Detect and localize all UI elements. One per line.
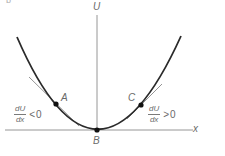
greater-than-sign: > [163, 109, 169, 120]
derivative-fraction: dU dx [148, 105, 160, 124]
zero-value: 0 [170, 109, 176, 120]
figure-corner-label: b [6, 0, 11, 5]
point-a-marker [53, 101, 58, 106]
point-c-marker [138, 102, 143, 107]
fraction-denominator: dx [16, 115, 24, 124]
zero-value: 0 [36, 109, 42, 120]
x-axis-label: x [193, 124, 198, 134]
fraction-numerator: dU [14, 105, 26, 115]
potential-energy-diagram: b U x A B C dU dx < 0 dU dx > 0 [0, 0, 225, 156]
point-c-label: C [128, 93, 135, 103]
diagram-canvas [0, 0, 225, 156]
point-b-label: B [93, 136, 100, 146]
point-b-marker [94, 127, 99, 132]
less-than-sign: < [29, 109, 35, 120]
slope-negative-annotation: dU dx < 0 [14, 105, 42, 124]
point-a-label: A [61, 93, 68, 103]
u-axis-label: U [93, 2, 100, 12]
fraction-denominator: dx [150, 115, 158, 124]
slope-positive-annotation: dU dx > 0 [148, 105, 176, 124]
fraction-numerator: dU [148, 105, 160, 115]
derivative-fraction: dU dx [14, 105, 26, 124]
